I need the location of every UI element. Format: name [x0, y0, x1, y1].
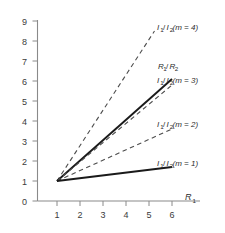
- x-axis-title: R 1: [185, 192, 197, 204]
- y-axis-ticks: [33, 21, 38, 201]
- x-axis-tick-labels: 1 2 3 4 5 6: [54, 210, 174, 220]
- series-label-m3: I 1 / I 2 (m = 3): [157, 76, 198, 86]
- y-tick-label-1: 1: [22, 177, 27, 187]
- y-tick-label-0: 0: [22, 197, 27, 207]
- x-tick-label-4: 4: [123, 210, 128, 220]
- series-label-r1r2: R 1 / R 2: [158, 62, 179, 72]
- line-chart-svg: 0 1 2 3 4 5 6 7 8 9 1 2 3 4 5 6: [0, 0, 225, 233]
- y-tick-label-3: 3: [22, 137, 27, 147]
- y-axis-tick-labels: 0 1 2 3 4 5 6 7 8 9: [22, 17, 27, 207]
- series-label-m4-paren: (m = 4): [173, 23, 199, 32]
- x-axis-title-sub: 1: [193, 197, 197, 204]
- y-tick-label-6: 6: [22, 77, 27, 87]
- chart-figure: 0 1 2 3 4 5 6 7 8 9 1 2 3 4 5 6: [0, 0, 225, 233]
- x-axis-title-base: R: [185, 192, 192, 202]
- series-line-r1r2: [57, 79, 172, 181]
- series-line-m1: [57, 167, 172, 181]
- y-tick-label-7: 7: [22, 57, 27, 67]
- series-label-m2-paren: (m = 2): [173, 120, 199, 129]
- y-tick-label-8: 8: [22, 37, 27, 47]
- y-tick-label-2: 2: [22, 157, 27, 167]
- x-tick-label-5: 5: [146, 210, 151, 220]
- x-tick-label-6: 6: [169, 210, 174, 220]
- series-label-m2: I 1 / I 2 (m = 2): [157, 120, 198, 130]
- series-label-m3-paren: (m = 3): [173, 76, 199, 85]
- y-tick-label-5: 5: [22, 97, 27, 107]
- x-tick-label-3: 3: [100, 210, 105, 220]
- series-label-m1-paren: (m = 1): [173, 159, 199, 168]
- x-tick-label-2: 2: [77, 210, 82, 220]
- series-label-m4: I 1 / I 2 (m = 4): [157, 23, 198, 33]
- series-line-m4: [57, 31, 155, 181]
- x-tick-label-1: 1: [54, 210, 59, 220]
- series-label-m1: I 1 / I 2 (m = 1): [157, 159, 198, 169]
- y-tick-label-4: 4: [22, 117, 27, 127]
- y-tick-label-9: 9: [22, 17, 27, 27]
- series-label-r1r2-den-sub: 2: [175, 65, 179, 72]
- x-axis-ticks: [57, 201, 172, 206]
